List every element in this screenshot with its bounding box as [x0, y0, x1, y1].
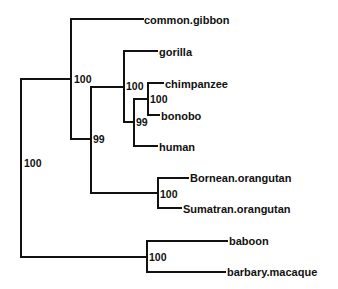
taxon-labels: common.gibbongorillachimpanzeebonobohuma…: [144, 14, 317, 278]
support-value-papionini: 100: [149, 251, 167, 263]
bootstrap-support-values: 1001009910099100100100: [24, 73, 178, 263]
phylogenetic-tree: 1001009910099100100100 common.gibbongori…: [0, 0, 338, 289]
tree-branches: [21, 19, 227, 272]
support-value-hominoidea: 100: [74, 73, 92, 85]
taxon-label-gorilla: gorilla: [159, 46, 193, 58]
support-value-hominidae: 99: [93, 133, 105, 145]
support-value-pan: 100: [150, 93, 168, 105]
support-value-hominini: 99: [136, 116, 148, 128]
support-value-pongo: 100: [160, 188, 178, 200]
taxon-label-human: human: [159, 141, 195, 153]
support-value-homininae: 100: [126, 80, 144, 92]
taxon-label-macaque: barbary.macaque: [227, 266, 317, 278]
taxon-label-bonobo: bonobo: [161, 110, 202, 122]
taxon-label-gibbon: common.gibbon: [144, 14, 230, 26]
taxon-label-baboon: baboon: [229, 235, 269, 247]
taxon-label-sumatran: Sumatran.orangutan: [183, 203, 291, 215]
taxon-label-chimp: chimpanzee: [165, 78, 228, 90]
taxon-label-bornean: Bornean.orangutan: [190, 172, 292, 184]
support-value-root: 100: [24, 157, 42, 169]
